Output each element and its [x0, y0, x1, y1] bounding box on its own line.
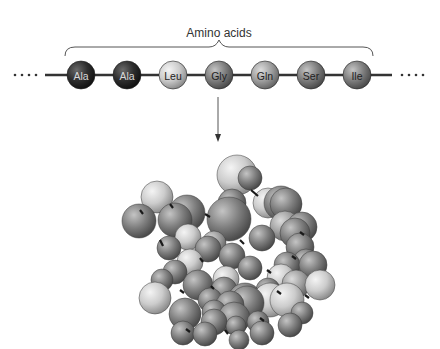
bracket — [65, 40, 373, 56]
residue-sphere — [193, 322, 217, 346]
amino-acid-bead: Ala — [67, 61, 95, 89]
folded-protein — [122, 155, 335, 349]
residue-sphere — [157, 236, 181, 260]
amino-acid-label: Gln — [257, 70, 274, 82]
residue-sphere — [238, 256, 262, 280]
residue-sphere — [249, 225, 275, 251]
amino-acid-bead: Gln — [251, 61, 279, 89]
amino-acid-bead: Ala — [113, 61, 141, 89]
amino-acid-label: Ala — [119, 70, 134, 82]
peptide-bond — [240, 240, 244, 244]
amino-acid-label: Leu — [164, 70, 182, 82]
residue-sphere — [278, 313, 302, 337]
residue-sphere — [139, 282, 171, 314]
amino-acid-bead: Leu — [159, 61, 187, 89]
amino-acid-bead: Ser — [297, 61, 325, 89]
ellipsis-right — [401, 74, 425, 77]
residue-sphere — [305, 270, 335, 300]
amino-acids-label: Amino acids — [186, 26, 251, 40]
residue-sphere — [229, 330, 249, 349]
amino-acid-label: Ala — [73, 70, 88, 82]
ellipsis-left — [14, 74, 38, 77]
fold-arrow — [215, 97, 221, 142]
amino-acid-label: Ile — [351, 70, 362, 82]
amino-acid-label: Ser — [303, 70, 320, 82]
protein-folding-diagram: Amino acids AlaAlaLeuGlyGlnSerIle — [0, 0, 440, 349]
amino-acid-label: Gly — [211, 70, 228, 82]
residue-sphere — [122, 204, 156, 238]
residue-sphere — [171, 321, 195, 345]
amino-acid-bead: Ile — [343, 61, 371, 89]
peptide-bond — [305, 295, 309, 298]
residue-sphere — [238, 166, 262, 190]
residue-sphere — [250, 321, 274, 345]
peptide-bond — [180, 290, 184, 293]
amino-acid-bead: Gly — [205, 61, 233, 89]
